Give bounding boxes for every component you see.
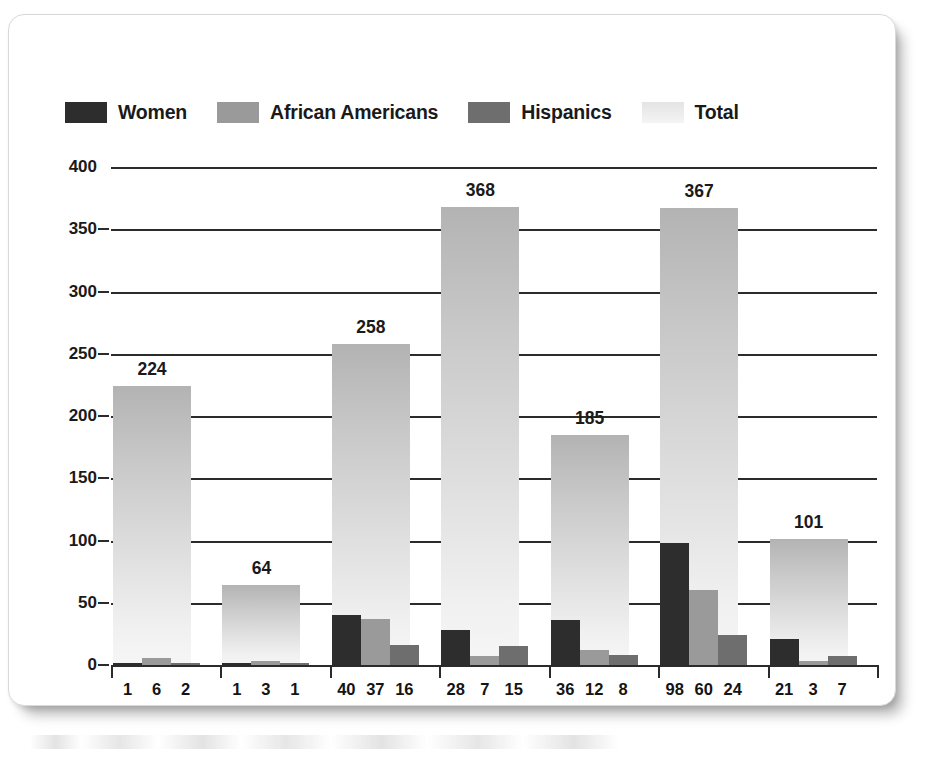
legend-label-women: Women (118, 101, 187, 124)
x-axis-value-label: 1 (232, 680, 241, 699)
bar-total (113, 386, 191, 665)
x-axis-value-label: 6 (152, 680, 161, 699)
x-axis-value-label: 7 (837, 680, 846, 699)
bar-african (689, 590, 718, 665)
legend-swatch-hisp-icon (468, 102, 510, 123)
bar-women (660, 543, 689, 665)
bar-group-reagan: 368 (439, 167, 548, 665)
y-axis-tick-mark (98, 415, 109, 417)
x-axis-value-label: 40 (337, 680, 355, 699)
bar-hisp (171, 663, 200, 666)
x-axis-value-label: 3 (808, 680, 817, 699)
bar-women (770, 639, 799, 665)
y-axis-tick-label: 400 (69, 157, 97, 177)
bar-hisp (280, 663, 309, 666)
legend-label-african: African Americans (270, 101, 438, 124)
x-axis-tick (220, 665, 222, 678)
legend-label-hisp: Hispanics (521, 101, 611, 124)
x-axis-value-label: 16 (395, 680, 413, 699)
y-axis-tick-mark (98, 353, 109, 355)
y-axis-tick-label: 200 (69, 406, 97, 426)
bar-hisp (609, 655, 638, 665)
bar-women (332, 615, 361, 665)
bar-women (551, 620, 580, 665)
x-axis-value-label: 7 (480, 680, 489, 699)
bar-women (222, 663, 251, 666)
x-axis-value-label: 37 (366, 680, 384, 699)
bar-african (142, 658, 171, 665)
x-axis-value-label: 8 (619, 680, 628, 699)
x-axis-tick (768, 665, 770, 678)
x-axis-value-label: 21 (775, 680, 793, 699)
bar-total-value-label: 185 (575, 408, 604, 429)
bar-group-clinton: 367 (658, 167, 767, 665)
bar-women (113, 663, 142, 666)
bar-hisp (718, 635, 747, 665)
legend-swatch-african-icon (217, 102, 259, 123)
legend-item-african: African Americans (217, 101, 438, 124)
x-axis-value-label: 2 (181, 680, 190, 699)
bar-group-nixon: 224 (111, 167, 220, 665)
x-axis-tick (549, 665, 551, 678)
bar-group-george-w-bush: 101 (768, 167, 877, 665)
bar-african (799, 661, 828, 665)
chart-legend: WomenAfrican AmericansHispanicsTotal (65, 95, 769, 129)
legend-item-total: Total (642, 101, 739, 124)
y-axis-tick-label: 250 (69, 343, 97, 363)
x-axis-value-label: 3 (261, 680, 270, 699)
y-axis-tick-mark (98, 664, 109, 666)
x-axis-tick (658, 665, 660, 678)
bar-group-ford: 64 (220, 167, 329, 665)
x-axis-value-label: 60 (694, 680, 712, 699)
y-axis-tick-mark (98, 540, 109, 542)
x-axis-value-label: 24 (723, 680, 741, 699)
x-axis-value-label: 98 (665, 680, 683, 699)
y-axis-tick-label: 150 (69, 468, 97, 488)
chart-card-inner: WomenAfrican AmericansHispanicsTotal 400… (9, 15, 895, 705)
bar-women (441, 630, 470, 665)
bar-hisp (499, 646, 528, 665)
bar-african (251, 661, 280, 665)
x-axis-value-label: 28 (447, 680, 465, 699)
legend-item-women: Women (65, 101, 187, 124)
x-axis-value-label: 1 (290, 680, 299, 699)
bar-total-value-label: 224 (137, 359, 166, 380)
bar-group-bush: 185 (549, 167, 658, 665)
page-artifact (30, 735, 670, 749)
legend-swatch-women-icon (65, 102, 107, 123)
bar-total-value-label: 101 (794, 512, 823, 533)
bar-total (222, 585, 300, 665)
y-axis-tick-label: 0 (88, 655, 97, 675)
bar-african (470, 656, 499, 665)
y-axis-tick-mark (98, 602, 109, 604)
bar-total-value-label: 64 (252, 558, 271, 579)
x-axis-value-label: 15 (505, 680, 523, 699)
bar-total-value-label: 258 (356, 317, 385, 338)
y-axis-tick-mark (98, 228, 109, 230)
x-axis-value-label: 12 (585, 680, 603, 699)
x-axis-tick (877, 665, 879, 678)
y-axis-tick-label: 100 (69, 530, 97, 550)
x-axis-value-label: 1 (123, 680, 132, 699)
bar-total-value-label: 368 (466, 180, 495, 201)
bar-african (580, 650, 609, 665)
bar-group-carter: 258 (330, 167, 439, 665)
chart-card: WomenAfrican AmericansHispanicsTotal 400… (8, 14, 896, 706)
y-axis-tick-mark (98, 291, 109, 293)
bar-hisp (390, 645, 419, 665)
y-axis-tick-label: 50 (78, 592, 97, 612)
y-axis-tick-label: 300 (69, 281, 97, 301)
y-axis-tick-label: 350 (69, 219, 97, 239)
x-axis-tick (330, 665, 332, 678)
bar-hisp (828, 656, 857, 665)
legend-swatch-total-icon (642, 102, 684, 123)
x-axis-tick (439, 665, 441, 678)
legend-label-total: Total (695, 101, 739, 124)
x-axis-value-labels: 16213140371628715361289860242137 (111, 680, 877, 704)
bar-total (441, 207, 519, 665)
legend-item-hisp: Hispanics (468, 101, 611, 124)
bar-african (361, 619, 390, 665)
bar-total-value-label: 367 (685, 181, 714, 202)
plot-area: 400350300250200150100500 224642583681853… (111, 167, 877, 665)
x-axis-tick (111, 665, 113, 678)
